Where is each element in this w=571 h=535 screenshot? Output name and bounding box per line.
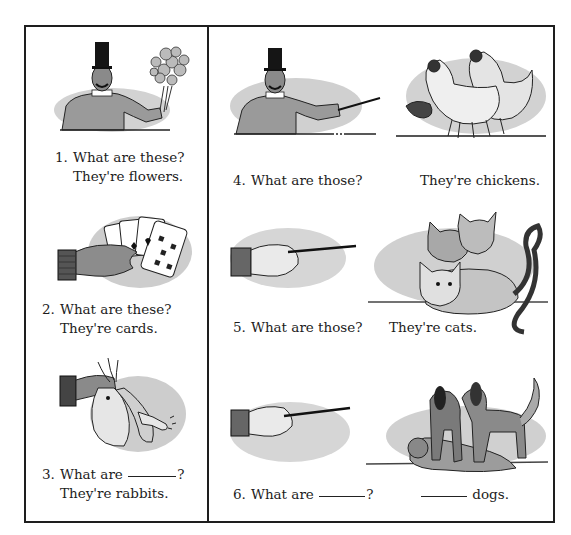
fill-in-blank[interactable] xyxy=(128,475,176,477)
question-text: What are those? xyxy=(251,319,363,335)
answer-text: They're chickens. xyxy=(420,172,540,188)
item-4-caption: 4.What are those? xyxy=(233,171,363,190)
answer-text: They're flowers. xyxy=(55,167,184,186)
fill-in-blank[interactable] xyxy=(319,495,365,497)
fill-in-blank[interactable] xyxy=(421,495,467,497)
item-6-answer: dogs. xyxy=(420,485,509,504)
item-number: 1. xyxy=(55,148,73,167)
item-number: 3. xyxy=(42,465,60,484)
cats-illustration xyxy=(368,206,548,336)
item-2-caption: 2.What are these? They're cards. xyxy=(42,300,171,338)
man-holding-flowers-illustration xyxy=(52,38,192,138)
question-text: What are these? xyxy=(73,149,184,165)
question-suffix: ? xyxy=(366,486,373,502)
answer-text: They're cards. xyxy=(42,319,171,338)
item-number: 2. xyxy=(42,300,60,319)
item-number: 4. xyxy=(233,171,251,190)
column-divider xyxy=(207,25,209,523)
item-1-caption: 1.What are these? They're flowers. xyxy=(55,148,184,186)
item-6-caption: 6.What are ? xyxy=(233,485,373,504)
answer-text: They're rabbits. xyxy=(42,484,184,503)
question-suffix: ? xyxy=(177,466,184,482)
hand-pointing-illustration xyxy=(228,396,368,466)
item-number: 6. xyxy=(233,485,251,504)
man-pointing-illustration xyxy=(226,46,386,138)
dogs-illustration xyxy=(366,370,548,480)
item-4-answer: They're chickens. xyxy=(420,171,540,190)
question-prefix: What are xyxy=(251,486,314,502)
chickens-illustration xyxy=(396,46,546,146)
item-number: 5. xyxy=(233,318,251,337)
question-text: What are those? xyxy=(251,172,363,188)
answer-text: They're cats. xyxy=(389,319,477,335)
answer-suffix: dogs. xyxy=(472,486,509,502)
item-3-caption: 3.What are ? They're rabbits. xyxy=(42,465,184,503)
question-prefix: What are xyxy=(60,466,123,482)
item-5-caption: 5.What are those? xyxy=(233,318,363,337)
question-text: What are these? xyxy=(60,301,171,317)
hand-holding-rabbits-illustration xyxy=(58,358,188,458)
hand-holding-cards-illustration xyxy=(55,212,195,302)
hand-pointing-illustration xyxy=(228,222,368,292)
item-5-answer: They're cats. xyxy=(389,318,477,337)
